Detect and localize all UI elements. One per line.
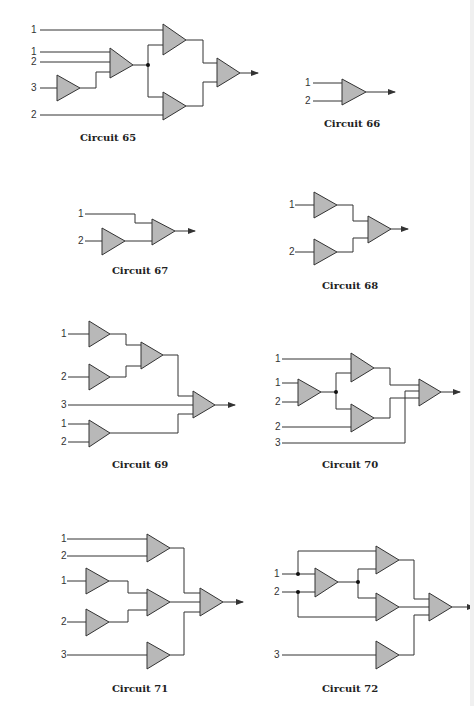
circuit-caption: Circuit 66	[324, 118, 380, 129]
gate-triangle	[314, 192, 337, 218]
circuit-caption: Circuit 72	[322, 683, 378, 694]
input-label: 1	[61, 534, 67, 544]
junction-dot	[296, 572, 300, 576]
circuit-67	[85, 214, 195, 255]
circuit-caption: Circuit 71	[112, 683, 168, 694]
input-label: 2	[61, 372, 67, 382]
input-label: 1	[78, 209, 84, 219]
input-label: 3	[275, 438, 281, 448]
gate-triangle	[86, 609, 109, 636]
gate-triangle	[376, 546, 399, 574]
page-edge-strip	[470, 0, 474, 706]
input-label: 1	[305, 78, 311, 88]
junction-dot	[356, 580, 360, 584]
gate-triangle	[342, 79, 366, 105]
input-label: 1	[61, 576, 67, 586]
junction-dot	[296, 590, 300, 594]
input-label: 3	[61, 650, 67, 660]
input-label: 2	[78, 236, 84, 246]
gate-triangle	[147, 534, 170, 562]
input-label: 2	[31, 57, 37, 67]
input-label: 2	[305, 96, 311, 106]
gate-triangle	[89, 321, 110, 347]
gate-triangle	[89, 420, 110, 447]
gate-triangle	[217, 58, 240, 87]
gate-triangle	[163, 24, 186, 55]
input-label: 1	[275, 378, 281, 388]
gate-triangle	[315, 568, 338, 597]
circuit-caption: Circuit 69	[112, 459, 168, 470]
input-label: 2	[31, 110, 37, 120]
gate-triangle	[152, 219, 175, 245]
gate-triangle	[193, 391, 215, 418]
junction-dot	[146, 63, 150, 67]
input-label: 2	[275, 397, 281, 407]
input-label: 1	[275, 354, 281, 364]
input-label: 1	[289, 200, 295, 210]
input-label: 2	[61, 437, 67, 447]
gate-triangle	[86, 568, 109, 594]
gate-triangle	[147, 589, 170, 616]
circuit-caption: Circuit 68	[322, 280, 378, 291]
gate-triangle	[102, 228, 125, 255]
circuit-caption: Circuit 65	[80, 132, 136, 143]
gate-triangle	[147, 642, 170, 669]
input-label: 3	[31, 83, 37, 93]
circuit-68	[295, 192, 408, 265]
gate-triangle	[351, 353, 374, 382]
gate-triangle	[89, 364, 110, 390]
input-label: 2	[61, 617, 67, 627]
gate-triangle	[141, 342, 163, 369]
circuit-caption: Circuit 70	[322, 459, 378, 470]
junction-dot	[334, 390, 338, 394]
gate-triangle	[376, 641, 399, 669]
circuit-69	[68, 321, 235, 447]
input-label: 2	[289, 247, 295, 257]
gate-triangle	[163, 92, 186, 120]
circuit-70	[282, 353, 460, 443]
gate-triangle	[419, 379, 441, 406]
input-label: 2	[61, 551, 67, 561]
gate-triangle	[57, 75, 80, 101]
circuit-66	[313, 79, 395, 105]
input-label: 1	[61, 419, 67, 429]
circuit-caption: Circuit 67	[112, 265, 168, 276]
circuit-65	[40, 24, 258, 120]
gate-triangle	[376, 593, 399, 621]
input-label: 1	[274, 569, 280, 579]
gate-triangle	[368, 216, 391, 243]
gate-triangle	[429, 593, 452, 621]
circuit-71	[67, 534, 243, 669]
gate-triangle	[200, 588, 223, 616]
circuit-diagram-canvas	[0, 0, 474, 706]
input-label: 3	[61, 400, 67, 410]
gate-triangle	[298, 379, 321, 406]
input-label: 1	[61, 329, 67, 339]
gate-triangle	[314, 239, 337, 265]
input-label: 2	[275, 422, 281, 432]
circuit-72	[282, 546, 474, 669]
input-label: 1	[31, 25, 37, 35]
gate-triangle	[110, 48, 133, 78]
input-label: 2	[274, 587, 280, 597]
input-label: 3	[274, 650, 280, 660]
gate-triangle	[351, 404, 374, 432]
